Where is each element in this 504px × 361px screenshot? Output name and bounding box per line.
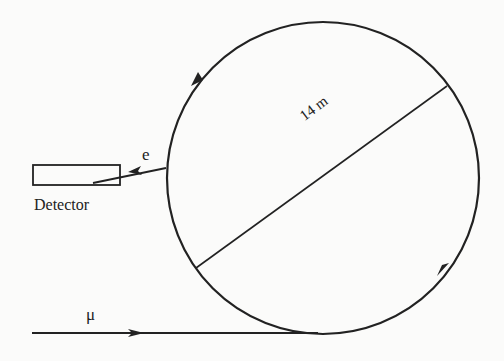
diagram-canvas: e Detector μ 14 m — [0, 0, 504, 361]
storage-ring — [167, 22, 479, 334]
detector-box — [33, 165, 120, 185]
ring-arrow-top-icon — [191, 72, 203, 86]
detector-label: Detector — [34, 196, 89, 214]
electron-track — [93, 168, 166, 183]
diagram-svg — [0, 0, 504, 361]
electron-label: e — [142, 145, 150, 165]
muon-label: μ — [86, 305, 95, 325]
